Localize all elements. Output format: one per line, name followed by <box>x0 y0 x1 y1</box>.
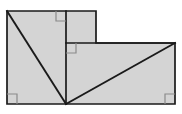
geometry-diagram <box>0 0 182 114</box>
figure-canvas <box>0 0 182 114</box>
